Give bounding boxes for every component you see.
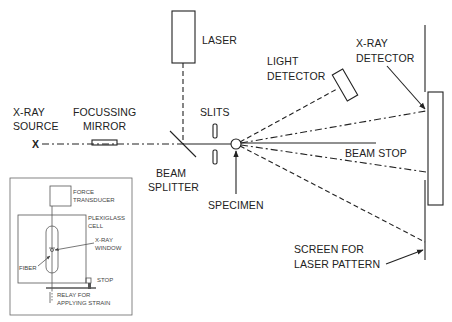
- stop-label: STOP: [97, 277, 113, 283]
- beam-stop-label: BEAM STOP: [345, 147, 407, 159]
- light-detector-box: [332, 69, 357, 101]
- slit-lower: [213, 150, 217, 164]
- xray-detector-pointer: [387, 66, 425, 109]
- screen-label-line1: SCREEN FOR: [294, 243, 364, 255]
- relay-label-line2: APPLYING STRAIN: [57, 300, 110, 306]
- force-transducer-label-line2: TRANSDUCER: [73, 197, 115, 203]
- xray-detector-label-line2: DETECTOR: [356, 52, 415, 64]
- beam-splitter-label-line2: SPLITTER: [148, 181, 199, 193]
- xray-diffraction-setup-diagram: LASER X-RAY SOURCE X FOCUSSING MIRROR BE…: [0, 0, 452, 322]
- xray-detector-box: [428, 92, 443, 205]
- xray-source-label-line1: X-RAY: [13, 106, 45, 118]
- ray-to-screen: [240, 146, 425, 242]
- xray-window-label-line2: WINDOW: [95, 245, 122, 251]
- xray-detector: X-RAY DETECTOR: [356, 25, 443, 205]
- inset-sample-cell: FORCE TRANSDUCER PLEXIGLASS CELL X-RAY W…: [10, 178, 132, 315]
- xray-source-mark: X: [32, 138, 39, 150]
- slit-upper: [213, 124, 217, 138]
- beam-splitter: BEAM SPLITTER: [148, 131, 199, 193]
- light-detector-label-line1: LIGHT: [267, 55, 299, 67]
- light-detector: LIGHT DETECTOR: [267, 55, 358, 101]
- laser: LASER: [172, 11, 237, 144]
- force-transducer-label-line1: FORCE: [73, 189, 94, 195]
- screen-label-line2: LASER PATTERN: [294, 258, 380, 270]
- laser-label: LASER: [202, 34, 237, 46]
- screen-pointer: [386, 250, 423, 264]
- xray-source-label-line2: SOURCE: [13, 120, 59, 132]
- ray-to-light-detector: [240, 89, 337, 142]
- xray-window-label-line1: X-RAY: [95, 237, 113, 243]
- xray-detector-label-line1: X-RAY: [356, 37, 388, 49]
- beam-splitter-label-line1: BEAM: [156, 167, 186, 179]
- laser-box: [172, 11, 195, 63]
- specimen-circle: [231, 139, 241, 149]
- focussing-mirror-label-line1: FOCUSSING: [73, 106, 136, 118]
- fiber-label: FIBER: [19, 265, 37, 271]
- plexiglass-cell-label-line1: PLEXIGLASS: [88, 215, 125, 221]
- laser-screen: SCREEN FOR LASER PATTERN: [294, 180, 425, 270]
- beam-stop: BEAM STOP: [241, 143, 407, 159]
- ray-xray-upper: [241, 111, 426, 143]
- plexiglass-cell-label-line2: CELL: [88, 223, 104, 229]
- light-detector-label-line2: DETECTOR: [267, 70, 326, 82]
- slits-label: SLITS: [200, 106, 230, 118]
- focussing-mirror-label-line2: MIRROR: [83, 120, 126, 132]
- focussing-mirror: FOCUSSING MIRROR: [73, 106, 136, 145]
- slits: SLITS: [200, 106, 230, 164]
- specimen-label: SPECIMEN: [208, 199, 264, 211]
- xray-source: X-RAY SOURCE X: [13, 106, 59, 150]
- relay-label-line1: RELAY FOR: [57, 292, 91, 298]
